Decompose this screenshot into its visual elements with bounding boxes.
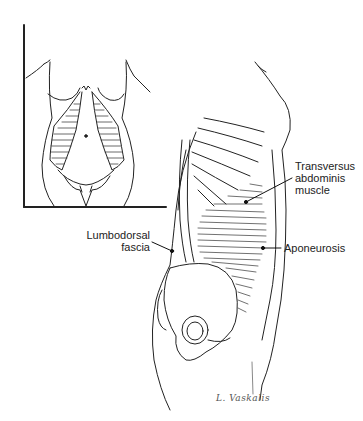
artist-signature: L. Vaskalis — [216, 393, 270, 403]
label-aponeurosis: Aponeurosis — [284, 242, 345, 254]
label-transversus-abdominis: Transversus abdominis muscle — [295, 160, 355, 196]
main-muscle-hatching — [198, 184, 266, 312]
label-line: fascia — [78, 241, 150, 253]
main-lateral-view — [152, 62, 290, 410]
label-line: Aponeurosis — [284, 242, 345, 254]
label-line: muscle — [295, 184, 355, 196]
label-line: Lumbodorsal — [78, 229, 150, 241]
inset-anterior-view — [24, 25, 166, 207]
label-line: Transversus — [295, 160, 355, 172]
inset-muscle-hatching — [51, 104, 123, 164]
illustration-drawing — [0, 0, 363, 421]
label-line: abdominis — [295, 172, 355, 184]
label-lumbodorsal-fascia: Lumbodorsal fascia — [78, 229, 150, 253]
anatomical-illustration: Transversus abdominis muscle Aponeurosis… — [0, 0, 363, 421]
